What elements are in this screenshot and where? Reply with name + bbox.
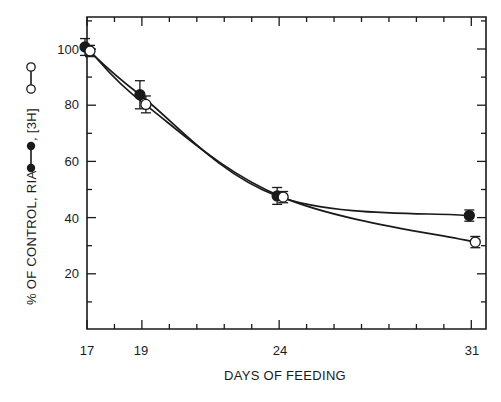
y-tick-label-100: 100: [57, 42, 79, 57]
y-tick-label-60: 60: [65, 154, 79, 169]
y-tick-label-20: 20: [65, 266, 79, 281]
y-axis-title-prefix: % OF CONTROL, RIA: [24, 171, 39, 305]
x-tick-label-31: 31: [465, 343, 479, 358]
plot-frame: [87, 17, 486, 329]
data-series: [80, 39, 480, 248]
x-tick-label-24: 24: [273, 343, 287, 358]
data-point: [464, 211, 474, 221]
data-point: [141, 99, 151, 109]
line-chart: 17 19 24 31 100 80 60 40 20 DAYS OF FEED…: [0, 0, 501, 402]
legend-3h-symbol: [27, 63, 35, 93]
data-point: [85, 46, 95, 56]
x-tick-label-17: 17: [80, 343, 94, 358]
series-ria: [80, 39, 474, 222]
data-point: [278, 192, 288, 202]
y-tick-label-40: 40: [65, 211, 79, 226]
series-3h: [85, 45, 480, 247]
data-point: [470, 237, 480, 247]
x-tick-label-19: 19: [134, 343, 148, 358]
x-axis-title: DAYS OF FEEDING: [224, 368, 346, 383]
y-axis-title-mid: , [3H]: [24, 108, 39, 141]
legend-ria-symbol: [27, 142, 35, 172]
axis-ticks: [87, 17, 486, 329]
y-axis-title: % OF CONTROL, RIA , [3H]: [24, 63, 39, 305]
y-tick-label-80: 80: [65, 97, 79, 112]
